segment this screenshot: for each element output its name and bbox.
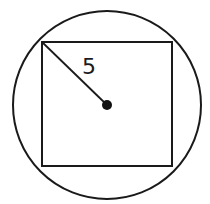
center-point [102,100,112,110]
radius-label: 5 [82,54,96,79]
diagram-canvas: 5 [0,0,210,204]
inscribed-square-diagram: 5 [0,0,210,204]
radius-line [42,42,107,105]
